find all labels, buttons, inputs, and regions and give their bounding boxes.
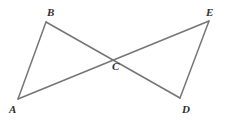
- vertex-label-D: D: [182, 104, 190, 115]
- segment-DE: [180, 21, 209, 98]
- vertex-label-B: B: [47, 7, 54, 18]
- vertex-label-A: A: [9, 104, 16, 115]
- vertex-label-C: C: [112, 61, 119, 72]
- segment-AB: [18, 22, 46, 99]
- vertex-label-E: E: [206, 7, 213, 18]
- geometry-figure: B E C A D: [0, 0, 227, 122]
